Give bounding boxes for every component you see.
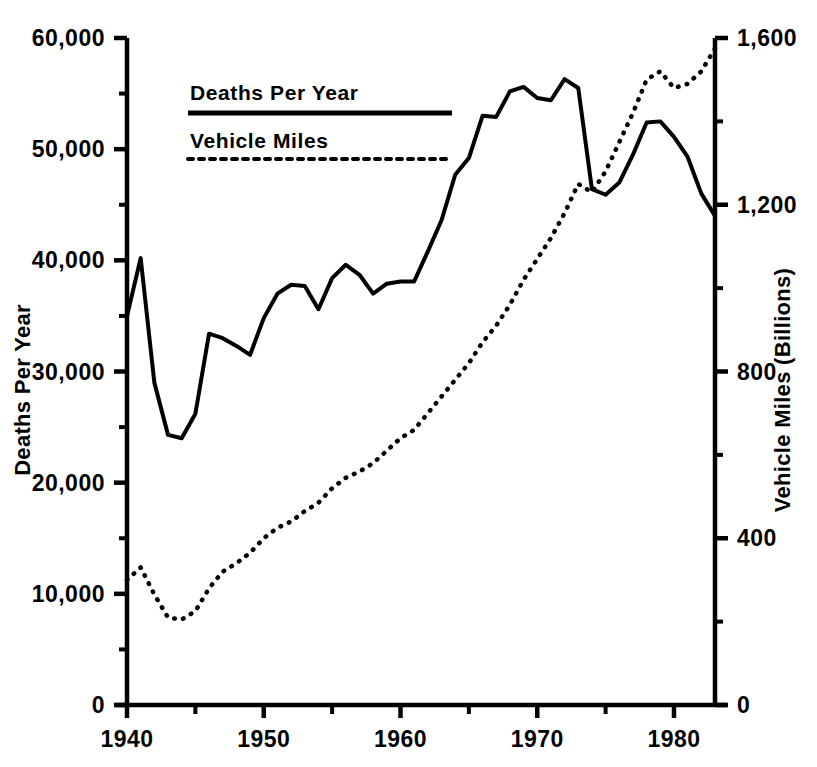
x-axis-tick-label: 1970 <box>511 726 564 752</box>
y-axis-tick-label: 20,000 <box>32 470 105 496</box>
y2-axis-tick-label: 400 <box>737 525 777 551</box>
y-axis-tick-label: 30,000 <box>32 359 105 385</box>
y-axis-title: Deaths Per Year <box>10 304 35 476</box>
y-axis-tick-label: 50,000 <box>32 136 105 162</box>
line-chart: 010,00020,00030,00040,00050,00060,000040… <box>0 0 817 767</box>
y-axis-tick-label: 10,000 <box>32 581 105 607</box>
x-axis-tick-label: 1950 <box>237 726 290 752</box>
x-axis-tick-label: 1960 <box>374 726 427 752</box>
legend-label-deaths: Deaths Per Year <box>190 81 359 104</box>
y2-axis-tick-label: 0 <box>737 692 750 718</box>
y-axis-tick-label: 0 <box>92 692 105 718</box>
y2-axis-tick-label: 1,600 <box>737 25 797 51</box>
y2-axis-title: Vehicle Miles (Billions) <box>770 268 795 512</box>
chart-container: 010,00020,00030,00040,00050,00060,000040… <box>0 0 817 767</box>
y-axis-tick-label: 60,000 <box>32 25 105 51</box>
y-axis-tick-label: 40,000 <box>32 247 105 273</box>
x-axis-tick-label: 1940 <box>100 726 153 752</box>
y2-axis-tick-label: 1,200 <box>737 192 797 218</box>
x-axis-tick-label: 1980 <box>647 726 700 752</box>
legend-label-vehicle-miles: Vehicle Miles <box>190 129 329 152</box>
